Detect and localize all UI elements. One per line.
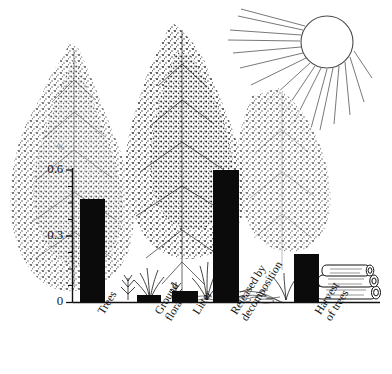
figure-canvas: % 0.6 0.3 0 Trees Ground flora Litter Re… (0, 0, 392, 374)
axis-text-layer: % 0.6 0.3 0 Trees Ground flora Litter Re… (0, 0, 392, 374)
y-tick-label-0-3: 0.3 (33, 227, 63, 243)
x-tick-label-harvest-of-trees: Harvest of trees (312, 280, 351, 323)
y-tick-label-0-6: 0.6 (33, 161, 63, 177)
y-axis-unit-label: % (57, 142, 65, 152)
x-tick-label-litter: Litter (190, 288, 214, 316)
x-tick-label-ground-flora: Ground flora (152, 280, 191, 323)
x-tick-label-trees: Trees (95, 289, 119, 317)
y-tick-label-0: 0 (33, 293, 63, 309)
x-tick-label-released-by-decomposition: Released by decomposition (228, 253, 284, 323)
